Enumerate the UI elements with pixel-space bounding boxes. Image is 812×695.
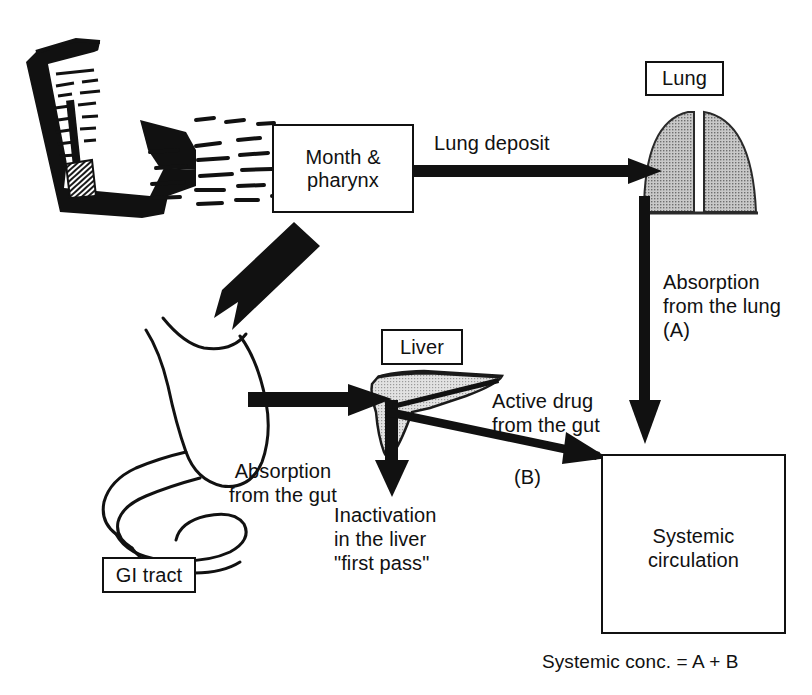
stomach-intestine-icon (103, 318, 268, 573)
liver-box[interactable]: Liver (381, 329, 463, 365)
arrow-mouth-to-lung (410, 158, 662, 184)
lung-icon (640, 112, 758, 213)
mouth-and-pharynx-box[interactable]: Month & pharynx (272, 124, 414, 213)
lung-deposit-label: Lung deposit (434, 131, 550, 155)
metered-dose-inhaler-icon (26, 40, 196, 218)
liver-label: Liver (400, 336, 444, 359)
systemic-circulation-label: Systemic circulation (603, 524, 784, 572)
systemic-circulation-box[interactable]: Systemic circulation (601, 454, 786, 634)
route-b-label: (B) (514, 465, 541, 489)
absorption-from-gut-label: Absorption from the gut (229, 459, 337, 507)
inactivation-first-pass-label: Inactivation in the liver "first pass" (334, 503, 436, 575)
arrow-lung-to-systemic (629, 196, 661, 444)
gi-tract-label: GI tract (116, 564, 182, 587)
diagram-canvas: Month & pharynx Lung Liver GI tract Syst… (0, 0, 812, 695)
active-drug-from-gut-label: Active drug from the gut (492, 389, 600, 437)
systemic-concentration-formula: Systemic conc. = A + B (542, 651, 739, 674)
absorption-from-lung-label: Absorption from the lung (A) (663, 270, 781, 342)
lung-label: Lung (662, 67, 707, 90)
mouth-and-pharynx-label: Month & pharynx (305, 146, 380, 192)
gi-tract-box[interactable]: GI tract (102, 557, 196, 593)
lung-box[interactable]: Lung (645, 61, 724, 96)
arrow-mouth-to-gi (214, 222, 320, 330)
